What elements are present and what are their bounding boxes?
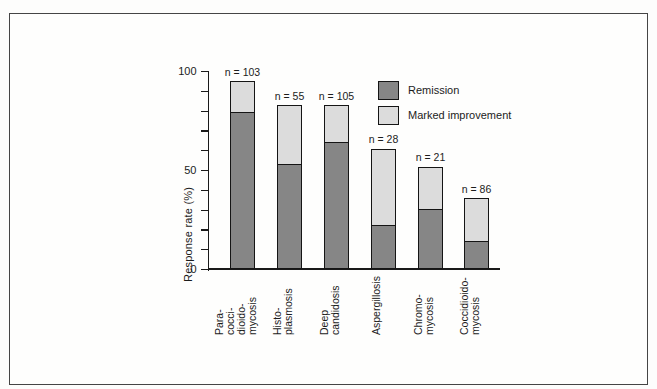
figure-frame: Response rate (%) 050100 n = 103n = 55n …	[9, 13, 648, 385]
bar-4	[371, 149, 396, 270]
x-axis-label-line: dioido-	[236, 265, 247, 335]
x-axis-label-line: mycosis	[424, 265, 435, 335]
x-axis-category-label: Coccidioido-mycosis	[459, 265, 481, 335]
bar-segment-marked-improvement	[231, 82, 254, 112]
x-axis-label-line: mycosis	[470, 265, 481, 335]
legend-label-marked-improvement: Marked improvement	[408, 109, 511, 121]
bar-n-label: n = 103	[213, 66, 273, 79]
y-axis-tick	[201, 130, 208, 131]
x-axis-label-line: cocci-	[225, 265, 236, 335]
bar-segment-marked-improvement	[325, 106, 348, 142]
bar-segment-marked-improvement	[465, 199, 488, 241]
y-axis-tick	[201, 210, 208, 211]
y-axis-tick	[201, 150, 208, 151]
bar-segment-marked-improvement	[419, 168, 442, 210]
legend-swatch-remission	[378, 81, 399, 100]
y-axis-tick	[201, 170, 208, 171]
x-axis-label-line: Histo-	[272, 265, 283, 335]
y-axis-tick-label: 0	[159, 263, 197, 276]
legend-swatch-marked-improvement	[378, 106, 399, 125]
x-axis-label-line: Deep	[319, 265, 330, 335]
bar-n-label: n = 105	[307, 90, 367, 103]
y-axis-tick	[201, 249, 208, 250]
bar-n-label: n = 21	[401, 151, 461, 164]
bar-3	[324, 105, 349, 269]
x-axis-category-label: Aspergillosis	[371, 265, 382, 335]
bar-segment-remission	[278, 164, 301, 269]
x-axis-label-line: plasmosis	[283, 265, 294, 335]
legend: Remission Marked improvement	[378, 80, 511, 130]
legend-entry-marked-improvement: Marked improvement	[378, 105, 511, 125]
x-axis-label-line: Aspergillosis	[371, 265, 382, 335]
bar-6	[464, 198, 489, 269]
legend-label-remission: Remission	[408, 84, 459, 96]
x-axis-category-label: Deepcandidosis	[319, 265, 341, 335]
y-axis-tick	[201, 229, 208, 230]
figure-canvas: Response rate (%) 050100 n = 103n = 55n …	[0, 0, 657, 389]
x-axis-label-line: mycosis	[247, 265, 258, 335]
x-axis-category-label: Chromo-mycosis	[413, 265, 435, 335]
y-axis-tick-label: 100	[159, 65, 197, 78]
x-axis-label-line: candidosis	[330, 265, 341, 335]
bar-segment-marked-improvement	[278, 106, 301, 163]
y-axis-tick	[201, 111, 208, 112]
x-axis-label-line: Chromo-	[413, 265, 424, 335]
y-axis-tick	[201, 91, 208, 92]
y-axis-tick	[201, 71, 208, 72]
x-axis-category-label: Histo-plasmosis	[272, 265, 294, 335]
bar-n-label: n = 28	[354, 133, 414, 146]
y-axis-tick	[201, 190, 208, 191]
bar-5	[418, 167, 443, 270]
bar-segment-remission	[372, 225, 395, 269]
bar-segment-remission	[325, 142, 348, 269]
bar-n-label: n = 86	[447, 183, 507, 196]
x-axis-label-line: Para-	[214, 265, 225, 335]
bar-segment-remission	[231, 112, 254, 268]
bar-segment-marked-improvement	[372, 150, 395, 225]
y-axis-tick	[201, 269, 208, 270]
y-axis-tick-label: 50	[159, 164, 197, 177]
legend-entry-remission: Remission	[378, 80, 511, 100]
bar-1	[230, 81, 255, 269]
x-axis-category-label: Para-cocci-dioido-mycosis	[214, 265, 258, 335]
bar-2	[277, 105, 302, 269]
x-axis-label-line: Coccidioido-	[459, 265, 470, 335]
bar-segment-remission	[419, 209, 442, 268]
y-axis-line	[208, 71, 210, 271]
